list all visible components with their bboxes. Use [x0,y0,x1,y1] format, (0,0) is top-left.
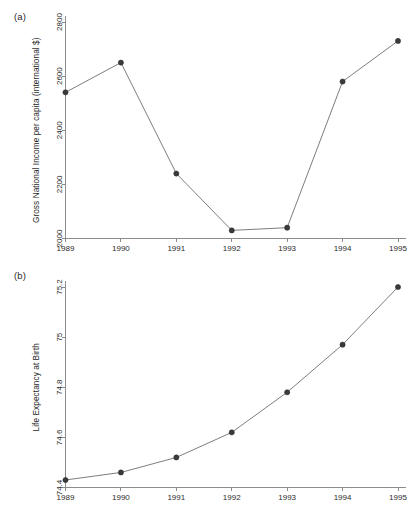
x-tick-label: 1990 [112,244,130,253]
y-tick-label: 74.8 [55,379,64,395]
figure-container: (a) 200022002400260028001989199019911992… [0,0,414,515]
x-tick-label: 1992 [223,244,241,253]
y-tick-label: 75.2 [55,279,64,295]
chart-a-svg: 2000220024002600280019891990199119921993… [0,0,414,258]
x-tick-label: 1994 [334,244,352,253]
x-tick-label: 1989 [57,493,75,502]
x-tick-label: 1991 [167,244,185,253]
y-axis-title: Life Expectancy at Birth [32,343,41,432]
data-point-marker [340,342,345,347]
data-point-marker [63,90,68,95]
data-point-marker [340,79,345,84]
x-tick-label: 1995 [389,244,407,253]
data-point-marker [174,171,179,176]
x-tick-label: 1993 [278,493,296,502]
y-tick-label: 75 [55,332,64,341]
data-point-marker [229,430,234,435]
x-tick-label: 1991 [167,493,185,502]
panel-a-label: (a) [14,11,26,22]
x-tick-label: 1995 [389,493,407,502]
series-line [66,41,399,230]
data-point-marker [285,225,290,230]
data-point-marker [118,470,123,475]
panel-b: (b) 74.474.674.87575.2198919901991199219… [0,258,414,515]
data-point-marker [285,390,290,395]
x-tick-label: 1992 [223,493,241,502]
y-tick-label: 2200 [55,175,64,193]
panel-a: (a) 200022002400260028001989199019911992… [0,0,414,258]
panel-b-label: (b) [14,270,26,281]
data-point-marker [63,477,68,482]
data-point-marker [118,60,123,65]
chart-b-svg: 74.474.674.87575.21989199019911992199319… [0,258,414,515]
y-tick-label: 2400 [55,121,64,139]
x-tick-label: 1989 [57,244,75,253]
data-point-marker [395,38,400,43]
data-point-marker [229,228,234,233]
y-tick-label: 2600 [55,67,64,85]
x-tick-label: 1990 [112,493,130,502]
y-tick-label: 74.6 [55,429,64,445]
y-axis-title: Gross National Income per capita (intern… [32,37,41,223]
data-point-marker [395,284,400,289]
y-tick-label: 2800 [55,13,64,31]
data-point-marker [174,455,179,460]
x-tick-label: 1994 [334,493,352,502]
series-line [66,287,399,480]
x-tick-label: 1993 [278,244,296,253]
